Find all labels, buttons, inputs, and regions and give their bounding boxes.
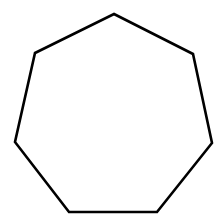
diagram-canvas bbox=[0, 0, 224, 224]
heptagon-outline bbox=[15, 14, 212, 212]
heptagon-figure bbox=[0, 0, 224, 224]
